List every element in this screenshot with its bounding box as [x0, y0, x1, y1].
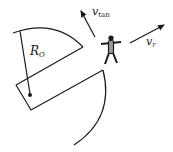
v-tan-label-sub: tan: [98, 11, 110, 19]
center-dot: [28, 93, 32, 97]
lower-arc: [74, 70, 106, 145]
radius-line: [20, 31, 30, 94]
astronaut-figure: [101, 35, 121, 64]
v-r-label: vr: [146, 36, 156, 47]
v-r-label-sub: r: [152, 41, 155, 49]
radius-label-sub: O: [39, 51, 45, 59]
upper-arc: [13, 28, 83, 47]
diagram-canvas: RO vtan vr: [0, 0, 173, 152]
radius-label: RO: [30, 45, 45, 57]
diagram-svg: [0, 0, 173, 152]
v-tan-label: vtan: [92, 6, 110, 17]
radius-label-main: R: [30, 44, 39, 58]
